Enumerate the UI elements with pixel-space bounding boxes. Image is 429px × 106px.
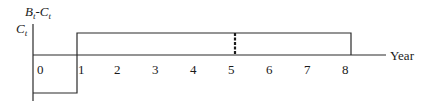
y-axis-label-line1: Bt-Ct [25, 4, 51, 21]
tick-label-8: 8 [342, 62, 349, 77]
tick-label-0: 0 [37, 62, 44, 77]
tick-label-5: 5 [228, 62, 235, 77]
years-1-8-benefit-bar [77, 33, 351, 55]
tick-label-4: 4 [190, 62, 197, 77]
cash-flow-diagram: Bt-Ct Ct 0 1 2 3 4 5 6 7 8 Year [0, 0, 429, 106]
x-axis-label: Year [390, 48, 415, 63]
tick-label-2: 2 [114, 62, 121, 77]
tick-label-6: 6 [266, 62, 273, 77]
tick-label-1: 1 [78, 62, 85, 77]
tick-label-7: 7 [304, 62, 311, 77]
y-axis-label-line2: Ct [16, 21, 28, 38]
tick-label-3: 3 [152, 62, 159, 77]
